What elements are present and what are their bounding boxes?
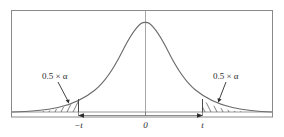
left-annotation-leader-arrow bbox=[58, 82, 70, 103]
axis-label-zero: 0 bbox=[143, 120, 148, 130]
right-tail-area-label-text: 0.5 × α bbox=[213, 71, 239, 81]
axis-label-positive-t: t bbox=[201, 120, 204, 130]
right-tail-area-label: 0.5 × α bbox=[213, 71, 239, 81]
normal-curve bbox=[12, 22, 272, 112]
axis-label-negative-t: −t bbox=[74, 120, 83, 130]
figure-container: 0.5 × α 0.5 × α −t 0 t bbox=[0, 0, 284, 137]
distribution-diagram: 0.5 × α 0.5 × α −t 0 t bbox=[0, 0, 284, 137]
axis-label-positive-t-text: t bbox=[201, 120, 204, 130]
figure-frame bbox=[12, 11, 273, 118]
axis-label-zero-text: 0 bbox=[143, 120, 148, 130]
axis-label-negative-t-text: −t bbox=[74, 120, 83, 130]
left-tail-area-label: 0.5 × α bbox=[42, 71, 68, 81]
right-annotation-leader-arrow bbox=[218, 82, 226, 102]
left-tail-area-label-text: 0.5 × α bbox=[42, 71, 68, 81]
